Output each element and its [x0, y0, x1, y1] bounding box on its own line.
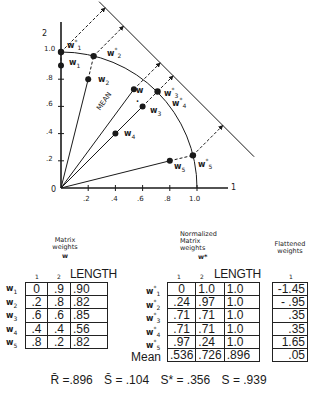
weight-vector	[61, 79, 88, 188]
x-tick-label: .2	[83, 196, 90, 203]
label-w4-star: w*4	[172, 96, 186, 109]
row-label-index: 1	[13, 288, 17, 295]
y-tick-label: .6	[46, 101, 53, 108]
table-cell: .6	[48, 309, 71, 322]
table-cell: 1.65	[273, 335, 308, 348]
table-row: -1.45	[273, 283, 308, 296]
origin-label: 0	[51, 186, 56, 193]
table-cell: .4	[26, 322, 48, 335]
flattened-weights-caption: Flattened weights	[265, 241, 315, 255]
row-label-index: 3	[13, 315, 17, 322]
weight-point	[112, 131, 118, 137]
table-row: .35	[273, 322, 308, 335]
row-label: w5	[6, 338, 17, 349]
flattened-weights-table: -1.45- .95.35.351.65.05	[272, 282, 308, 362]
row-label-index: 5	[13, 342, 17, 349]
table-cell: .82	[71, 335, 108, 348]
table-cell: .05	[273, 348, 308, 361]
table-cell: 0	[168, 283, 196, 296]
table-cell: .35	[273, 322, 308, 335]
row-label: w*2	[146, 298, 160, 311]
label-w-mean: w .	[136, 86, 143, 104]
table-row: .05	[273, 348, 308, 361]
table-cell: .97	[196, 296, 224, 309]
row-label: w3	[6, 311, 17, 322]
table-cell: .9	[48, 283, 71, 296]
table-cell: .4	[48, 322, 71, 335]
table-cell: .56	[71, 322, 108, 335]
table-cell: .71	[196, 309, 224, 322]
label-w1-star: w*1	[67, 38, 81, 51]
table-cell: .97	[168, 335, 196, 348]
row-label: w*3	[146, 311, 160, 324]
normalized-point	[190, 152, 196, 158]
table-cell: .6	[26, 309, 48, 322]
label-w2-star: w*2	[107, 46, 121, 59]
table-cell: 1.0	[224, 335, 259, 348]
row-label-index: 1	[156, 290, 160, 297]
stat-s-bar: S̄ = .104	[104, 373, 149, 387]
table-cell: .85	[71, 309, 108, 322]
normalize-link	[170, 155, 193, 160]
projection-line	[99, 2, 254, 157]
table-cell: 1.0	[224, 296, 259, 309]
y-tick-label: .2	[46, 156, 53, 163]
mean-cell: .896	[224, 348, 259, 361]
table-cell: 1.0	[224, 283, 259, 296]
mean-cell: .726	[196, 348, 224, 361]
label-w2: w2	[98, 75, 109, 86]
row-label-index: 4	[13, 328, 17, 335]
label-w5-star: w*5	[198, 157, 212, 170]
weight-point	[140, 103, 146, 109]
table-cell: .71	[168, 309, 196, 322]
projection-arrow	[193, 125, 223, 155]
weight-vector	[61, 134, 115, 188]
table-row: 01.01.0	[168, 283, 260, 296]
table-row: .24.971.0	[168, 296, 260, 309]
normalized-point	[90, 53, 96, 59]
plot-content	[58, 2, 254, 191]
row-label-index: 2	[13, 301, 17, 308]
table-cell: -1.45	[273, 283, 308, 296]
length-header: LENGTH	[70, 267, 117, 281]
col-header: 1	[35, 273, 39, 280]
row-label-index: 2	[156, 304, 160, 311]
table-row: .8.2.82	[26, 335, 108, 348]
caption-line: weights	[40, 244, 90, 251]
stat-s-star: S* = .356	[161, 373, 211, 387]
normalize-link	[88, 56, 93, 79]
table-row: 1.65	[273, 335, 308, 348]
table-cell: .24	[196, 335, 224, 348]
mean-cell: .536	[168, 348, 196, 361]
row-label: w1	[6, 284, 17, 295]
table-cell: 1.0	[196, 283, 224, 296]
table-cell: .35	[273, 309, 308, 322]
mean-label: Mean	[131, 350, 161, 364]
x-axis-label: 1	[231, 184, 236, 191]
label-w5: w5	[174, 162, 185, 173]
matrix-weights-caption: Matrix weights w	[40, 237, 90, 260]
table-cell: .82	[71, 296, 108, 309]
label-w3: w3	[150, 106, 161, 117]
col-header: 2	[200, 273, 204, 280]
table-row: - .95	[273, 296, 308, 309]
summary-statistics: R̄ =.896 S̄ = .104 S* = .356 S = .939	[0, 373, 317, 387]
y-tick-label: .8	[46, 75, 53, 82]
row-label: w*1	[146, 284, 160, 297]
table-row: .6.6.85	[26, 309, 108, 322]
col-header: 2	[57, 273, 61, 280]
caption-symbol: w	[40, 253, 90, 260]
normalized-weights-caption: Normalized Matrix weights w*	[168, 231, 240, 261]
table-cell: - .95	[273, 296, 308, 309]
normalized-point	[58, 49, 64, 55]
weight-point	[167, 158, 173, 164]
table-cell: .24	[168, 296, 196, 309]
table-cell: 1.0	[224, 309, 259, 322]
row-label: w4	[6, 325, 17, 336]
y-tick-label: .4	[46, 129, 53, 136]
mean-row: .536.726.896	[168, 348, 260, 361]
table-row: 0.9.90	[26, 283, 108, 296]
table-cell: .2	[26, 296, 48, 309]
row-label-index: 4	[156, 331, 160, 338]
table-cell: .2	[48, 335, 71, 348]
